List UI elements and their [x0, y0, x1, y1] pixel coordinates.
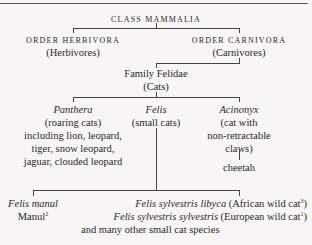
order-herbivora-common: (Herbivores)	[46, 46, 100, 59]
connector	[156, 63, 240, 64]
connector	[73, 28, 74, 33]
connector	[156, 128, 157, 190]
genus-panthera: Panthera (roaring cats) including lion, …	[24, 103, 122, 168]
family-felidae: Family Felidae	[124, 67, 187, 80]
footer-note: and many other small cat species	[81, 223, 220, 236]
connector	[239, 149, 240, 160]
connector	[239, 28, 240, 33]
genus-acinonyx: Acinonyx (cat with non-retractable claws…	[207, 103, 271, 155]
connector	[73, 97, 74, 102]
connector	[33, 190, 240, 191]
species-felis-sylvestris-libyca: Felis sylvestris libyca (African wild ca…	[135, 197, 307, 210]
species-felis-sylvestris-sylvestris: Felis sylvestris sylvestris (European wi…	[114, 210, 307, 223]
connector	[73, 97, 240, 98]
species-felis-manul: Felis manul Manul2	[8, 197, 58, 223]
cheetah: cheetah	[223, 161, 255, 174]
connector	[239, 190, 240, 196]
top-rule	[0, 3, 308, 4]
genus-felis: Felis (small cats)	[132, 103, 181, 129]
connector	[239, 97, 240, 102]
connector	[33, 190, 34, 196]
connector	[73, 28, 240, 29]
